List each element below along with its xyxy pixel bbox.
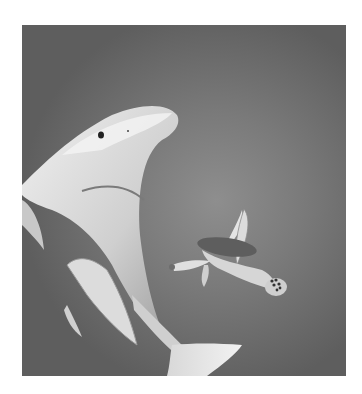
drawing-frame — [22, 25, 346, 376]
drawing-canvas — [22, 25, 346, 376]
shark-eye — [98, 132, 104, 139]
shark-tail — [167, 344, 242, 377]
sea-turtle — [169, 209, 287, 296]
